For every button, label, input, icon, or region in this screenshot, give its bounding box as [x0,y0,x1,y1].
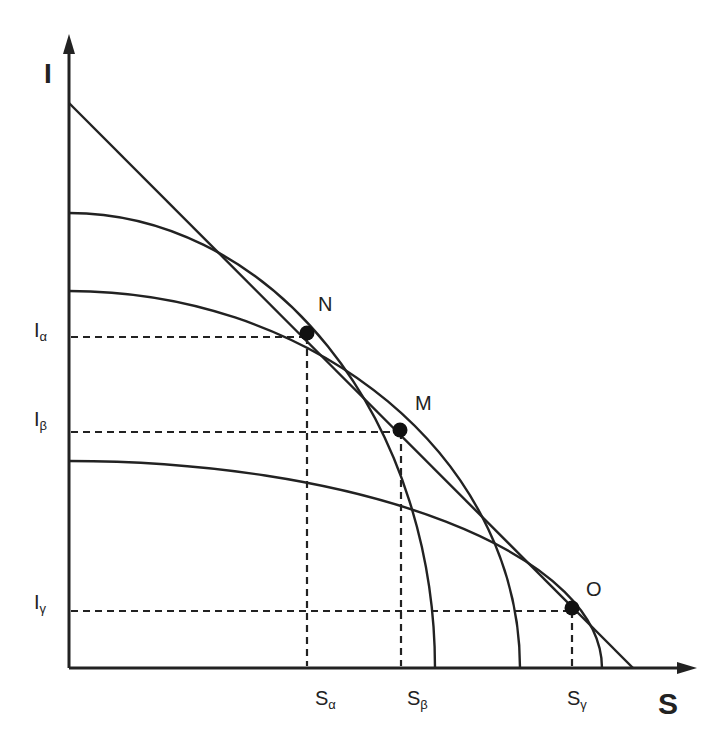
curve-alpha [69,213,435,668]
x-tick-base: S [315,687,328,709]
x-tick-base: S [407,687,420,709]
y-axis-arrow-icon [63,34,75,54]
y-tick-sub: γ [40,601,47,616]
x-tick-sub: γ [580,697,587,712]
curve-gamma [69,461,602,668]
point-o-label: O [586,579,602,599]
y-tick-i-alpha: Iα [34,320,47,343]
x-tick-s-alpha: Sα [315,688,336,711]
curves [69,103,633,668]
x-axis-title: S [658,689,678,719]
x-tick-s-gamma: Sγ [567,688,587,711]
y-tick-sub: β [40,418,47,433]
x-axis-arrow-icon [677,662,697,674]
dashed-guides [71,337,572,666]
x-tick-sub: α [328,697,336,712]
y-axis-title: I [44,60,52,88]
y-tick-i-gamma: Iγ [34,592,46,615]
point-m-marker [393,423,408,438]
diagram-canvas [0,0,728,743]
point-o-marker [565,601,580,616]
axes [69,50,682,668]
y-tick-sub: α [40,329,48,344]
x-tick-base: S [567,687,580,709]
point-n-label: N [318,294,332,314]
x-tick-sub: β [420,697,427,712]
x-tick-s-beta: Sβ [407,688,428,711]
point-m-label: M [415,393,432,413]
point-n-marker [300,326,315,341]
envelope-line [69,103,633,668]
y-tick-i-beta: Iβ [34,409,47,432]
